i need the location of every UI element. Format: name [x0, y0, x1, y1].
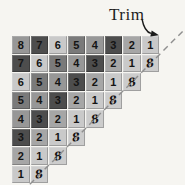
cell-value: 1: [18, 168, 24, 180]
number-cell: 6: [49, 36, 67, 54]
number-cell: 1: [68, 110, 86, 128]
cell-value: 7: [18, 57, 24, 69]
number-cell: 1: [49, 129, 67, 147]
grid-row: 76543218: [12, 55, 160, 74]
number-cell: 3: [105, 36, 123, 54]
cell-value: 1: [55, 131, 61, 143]
cell-value: 1: [73, 113, 79, 125]
number-cell: 8: [12, 36, 30, 54]
grid-row: 543218: [12, 92, 160, 111]
cell-value: 2: [110, 57, 116, 69]
number-cell: 1: [31, 147, 49, 165]
cell-value: 3: [18, 131, 24, 143]
trimmed-eight-cell: 8: [68, 129, 86, 147]
number-cell: 2: [12, 147, 30, 165]
cell-value: 8: [127, 74, 137, 89]
number-cell: 1: [12, 166, 30, 184]
cell-value: 8: [34, 167, 44, 182]
number-cell: 2: [86, 73, 104, 91]
number-cell: 3: [86, 55, 104, 73]
cell-value: 3: [36, 113, 42, 125]
grid-row: 43218: [12, 110, 160, 129]
cell-value: 6: [18, 76, 24, 88]
cell-value: 5: [55, 57, 61, 69]
cell-value: 1: [129, 57, 135, 69]
cell-value: 3: [55, 94, 61, 106]
number-cell: 2: [49, 110, 67, 128]
number-grid: 8765432176543218654321854321843218321821…: [12, 36, 160, 184]
trimmed-eight-cell: 8: [86, 110, 104, 128]
cell-value: 2: [73, 94, 79, 106]
cell-value: 1: [147, 39, 153, 51]
number-cell: 2: [68, 92, 86, 110]
cell-value: 8: [71, 130, 81, 145]
grid-row: 87654321: [12, 36, 160, 55]
cell-value: 5: [18, 94, 24, 106]
cell-value: 5: [73, 39, 79, 51]
grid-row: 18: [12, 166, 160, 185]
cell-value: 2: [55, 113, 61, 125]
number-cell: 4: [68, 55, 86, 73]
cell-value: 8: [145, 56, 155, 71]
number-cell: 3: [12, 129, 30, 147]
cell-value: 8: [90, 111, 100, 126]
cell-value: 8: [18, 39, 24, 51]
trimmed-eight-cell: 8: [105, 92, 123, 110]
number-cell: 3: [31, 110, 49, 128]
cell-value: 4: [55, 76, 61, 88]
cell-value: 6: [36, 57, 42, 69]
grid-row: 3218: [12, 129, 160, 148]
number-cell: 5: [31, 73, 49, 91]
cell-value: 2: [92, 76, 98, 88]
cell-value: 8: [53, 148, 63, 163]
trimmed-eight-cell: 8: [49, 147, 67, 165]
cell-value: 7: [36, 39, 42, 51]
number-cell: 6: [12, 73, 30, 91]
trimmed-eight-cell: 8: [142, 55, 160, 73]
cell-value: 3: [73, 76, 79, 88]
number-cell: 1: [105, 73, 123, 91]
number-cell: 3: [68, 73, 86, 91]
cell-value: 4: [73, 57, 79, 69]
grid-row: 218: [12, 147, 160, 166]
number-cell: 2: [105, 55, 123, 73]
number-cell: 5: [68, 36, 86, 54]
trimmed-eight-cell: 8: [31, 166, 49, 184]
number-cell: 7: [12, 55, 30, 73]
cell-value: 1: [110, 76, 116, 88]
cell-value: 3: [92, 57, 98, 69]
cell-value: 2: [36, 131, 42, 143]
number-cell: 7: [31, 36, 49, 54]
number-cell: 4: [12, 110, 30, 128]
cell-value: 2: [129, 39, 135, 51]
trim-label: Trim: [109, 5, 144, 25]
cell-value: 1: [36, 150, 42, 162]
number-cell: 5: [12, 92, 30, 110]
cell-value: 4: [18, 113, 24, 125]
number-cell: 2: [31, 129, 49, 147]
diagram-stage: Trim 87654321765432186543218543218432183…: [0, 0, 185, 185]
number-cell: 2: [123, 36, 141, 54]
number-cell: 1: [142, 36, 160, 54]
cell-value: 2: [18, 150, 24, 162]
number-cell: 4: [31, 92, 49, 110]
cell-value: 4: [36, 94, 42, 106]
cell-value: 3: [110, 39, 116, 51]
number-cell: 1: [123, 55, 141, 73]
cell-value: 6: [55, 39, 61, 51]
number-cell: 1: [86, 92, 104, 110]
trimmed-eight-cell: 8: [123, 73, 141, 91]
grid-row: 6543218: [12, 73, 160, 92]
cell-value: 8: [108, 93, 118, 108]
cell-value: 5: [36, 76, 42, 88]
number-cell: 4: [86, 36, 104, 54]
cell-value: 1: [92, 94, 98, 106]
cell-value: 4: [92, 39, 98, 51]
number-cell: 5: [49, 55, 67, 73]
number-cell: 6: [31, 55, 49, 73]
number-cell: 3: [49, 92, 67, 110]
number-cell: 4: [49, 73, 67, 91]
